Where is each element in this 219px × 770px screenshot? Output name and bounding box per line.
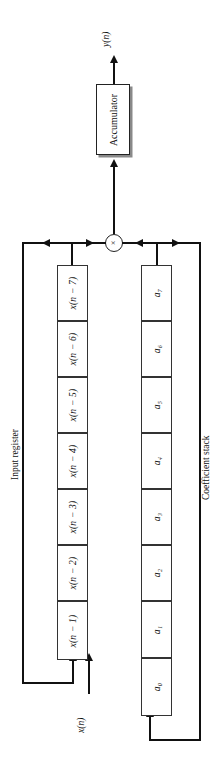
input-feedback-left-wire (22, 242, 24, 684)
coefficient-cell: a₅ (141, 377, 172, 433)
coefficient-feedback-bottom-wire (149, 739, 201, 741)
input-register-cell: x(n − 1) (57, 601, 88, 660)
diagram-canvas: y(n) Accumulator × x(n) Input register x… (0, 0, 219, 770)
coefficient-cell-label: a₂ (152, 569, 162, 577)
accumulator-output-wire (113, 62, 115, 84)
input-feedback-bottom-wire (22, 682, 74, 684)
coefficient-cell-label: a₅ (152, 401, 162, 409)
multiply-icon: × (110, 241, 118, 246)
accumulator-box: Accumulator (96, 84, 130, 155)
input-register-cell: x(n − 5) (57, 377, 88, 433)
coefficient-cell: a₁ (141, 601, 172, 658)
coefficient-feedback-return-wire (149, 716, 151, 741)
input-register-cell-label: x(n − 4) (68, 445, 78, 478)
coefficient-stack-label: Coefficient stack (201, 436, 211, 500)
input-register-tap-wire (71, 243, 73, 265)
multiplier-left-input-arrowhead-icon (86, 239, 94, 247)
input-feedback-return-wire (72, 660, 74, 684)
input-register-cell: x(n − 6) (57, 321, 88, 377)
coefficient-cell: a₄ (141, 433, 172, 489)
input-register-cell: x(n − 4) (57, 433, 88, 489)
accumulator-input-arrowhead-icon (110, 159, 118, 167)
coefficient-cell: a₀ (141, 658, 172, 716)
coefficient-stack-tap-wire (156, 243, 158, 265)
multiplier-to-accumulator-wire (113, 166, 115, 234)
input-register-cell: x(n − 2) (57, 545, 88, 601)
input-feedback-arrowhead-icon (42, 239, 50, 247)
coefficient-cell: a₆ (141, 321, 172, 377)
coefficient-feedback-arrowhead-icon (172, 239, 180, 247)
input-register-cell: x(n − 7) (57, 265, 88, 321)
coefficient-cell: a₇ (141, 265, 172, 321)
coefficient-cell: a₃ (141, 489, 172, 545)
input-register-cell-label: x(n − 6) (68, 333, 78, 366)
input-register-cell: x(n − 3) (57, 489, 88, 545)
input-register-cell-label: x(n − 1) (68, 614, 78, 647)
input-register-cell-label: x(n − 5) (68, 389, 78, 422)
coefficient-cell-label: a₀ (152, 683, 162, 691)
coefficient-cell-label: a₃ (152, 513, 162, 521)
multiplier-right-input-arrowhead-icon (135, 239, 143, 247)
coefficient-cell-label: a₄ (152, 457, 162, 465)
coefficient-cell: a₂ (141, 545, 172, 601)
xn-input-wire (88, 660, 90, 694)
coefficient-cell-label: a₆ (152, 345, 162, 353)
input-register-label: Input register (10, 429, 20, 480)
coefficient-cell-label: a₇ (152, 289, 162, 297)
coefficient-stack-output-bus (122, 242, 201, 244)
coefficient-cell-label: a₁ (152, 625, 162, 633)
input-register-cell-label: x(n − 7) (68, 277, 78, 310)
output-arrowhead-icon (110, 55, 118, 63)
input-label-xn: x(n) (76, 718, 86, 733)
multiplier-node: × (105, 234, 123, 252)
input-register-cell-label: x(n − 3) (68, 501, 78, 534)
input-register-cell-label: x(n − 2) (68, 557, 78, 590)
output-label-yn: y(n) (101, 32, 111, 47)
accumulator-label: Accumulator (108, 93, 119, 145)
